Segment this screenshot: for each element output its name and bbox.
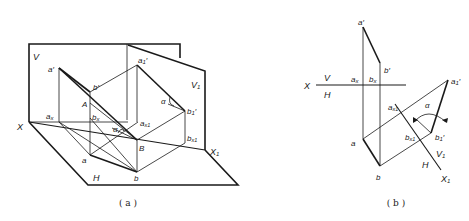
label-X-b: X — [303, 81, 311, 91]
caption-b: ( b ) — [387, 198, 406, 208]
label-a1-prime: a1′ — [138, 56, 148, 65]
label-A: A — [81, 100, 87, 109]
label-X1-b: X1 — [440, 174, 450, 184]
a-to-a1-prime — [363, 80, 448, 139]
label-alpha-1: α — [113, 125, 118, 134]
caption-a: ( a ) — [119, 198, 137, 208]
label-b-prime-b: b′ — [384, 66, 390, 75]
label-ax-b: ax — [351, 75, 359, 84]
alpha-ref-line-b — [416, 119, 431, 133]
label-a-prime: a′ — [48, 65, 54, 74]
label-bx-b: bx — [369, 75, 377, 84]
label-X1: X1 — [209, 147, 219, 157]
label-bx: bx — [92, 113, 100, 122]
label-alpha-b: α — [425, 101, 430, 110]
label-bx1-b: bx1 — [405, 133, 415, 142]
label-X: X — [16, 122, 24, 132]
a-prime-b-prime-line-b — [363, 27, 380, 63]
label-ax1: ax1 — [140, 119, 150, 128]
label-ax1-b: ax1 — [388, 103, 398, 112]
label-bx1: bx1 — [187, 134, 197, 143]
label-a: a — [82, 156, 87, 165]
a1-prime-b1-prime-line-b — [431, 80, 448, 133]
label-a1-prime-b: a1′ — [451, 77, 461, 86]
label-H: H — [93, 173, 100, 183]
arc-arrowhead-left — [413, 117, 418, 123]
label-V1: V1 — [191, 80, 200, 90]
label-alpha-2: α — [161, 97, 166, 106]
label-V: V — [33, 52, 40, 62]
alpha-arc-b — [414, 114, 446, 122]
label-H-b: H — [324, 90, 331, 100]
label-V1-b: V1 — [436, 149, 445, 159]
label-b-prime: b′ — [93, 83, 99, 92]
label-a-b: a — [351, 139, 356, 148]
label-b-b: b — [376, 173, 381, 182]
label-V-b: V — [324, 73, 331, 83]
arc-arrowhead-right — [442, 118, 448, 123]
label-b: b — [134, 174, 139, 183]
label-B: B — [139, 144, 145, 153]
ab-line-b — [363, 139, 380, 166]
label-ax: ax — [46, 112, 54, 121]
figure-a-pictorial: V X a′ ax b′ A bx a α B b H a1′ V1 α b1′… — [16, 44, 238, 208]
label-b1-prime: b1′ — [187, 107, 197, 116]
figure-b-orthographic: a′ b′ X V H ax bx a b a1′ ax1 α bx1 b1′ … — [303, 18, 461, 208]
label-b1-prime-b: b1′ — [435, 133, 445, 142]
figure-canvas: V X a′ ax b′ A bx a α B b H a1′ V1 α b1′… — [0, 0, 469, 221]
label-H2-b: H — [422, 160, 429, 170]
label-a-prime-b: a′ — [358, 18, 364, 27]
